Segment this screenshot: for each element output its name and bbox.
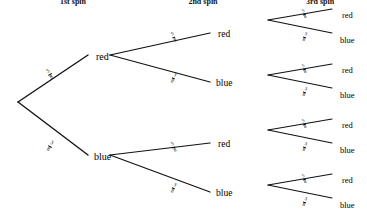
branch-level1-blue [18,102,88,155]
branch-level3-blue-red-red [268,119,332,130]
branch-level2-blue-blue [110,155,210,192]
branch-level2-red-blue [110,55,210,82]
level-2-branches [110,33,210,192]
outcome-label-level2-blue-red: red [218,140,230,150]
outcome-label-level2-blue-blue: blue [216,189,232,199]
tree-branches [0,0,367,220]
outcome-label-level2-red-red: red [218,30,230,40]
outcome-label-level1-red: red [96,52,109,62]
outcome-label-level3-blue-red-red: red [342,121,353,130]
branch-level3-red-red-red [268,9,332,20]
outcome-label-level3-red-red-blue: blue [340,36,355,45]
branch-level3-red-red-blue [268,20,332,33]
branch-level2-blue-red [110,143,210,155]
outcome-label-level3-blue-red-blue: blue [340,146,355,155]
outcome-label-level3-red-blue-red: red [342,66,353,75]
branch-level3-red-blue-blue [268,75,332,88]
outcome-label-level3-blue-blue-blue: blue [340,201,355,210]
outcome-label-level2-red-blue: blue [216,79,232,89]
level-3-branches [268,9,332,198]
outcome-label-level3-red-blue-blue: blue [340,91,355,100]
branch-level3-blue-blue-red [268,174,332,185]
branch-level3-blue-blue-blue [268,185,332,198]
branch-level2-red-red [110,33,210,55]
probability-tree-diagram: 1st spin 2nd spin 3rd spin red58blue38re… [0,0,367,220]
outcome-label-level3-red-red-red: red [342,11,353,20]
branch-level3-blue-red-blue [268,130,332,143]
outcome-label-level3-blue-blue-red: red [342,176,353,185]
branch-level3-red-blue-red [268,64,332,75]
outcome-label-level1-blue: blue [94,152,111,162]
